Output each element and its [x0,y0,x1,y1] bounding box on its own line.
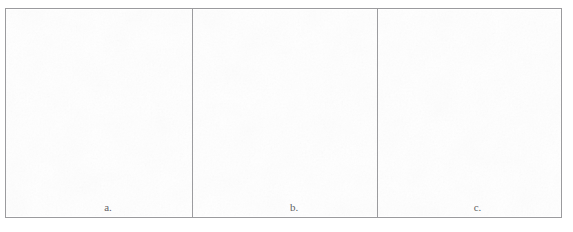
panel-a-label: a. [15,201,201,213]
figure-caption-strip: — ——— ————— [4,0,304,5]
panel-a-content-area [6,9,192,191]
figure-caption-text: — ——— ————— [4,0,304,5]
figure-frame: a. b. c. [5,8,562,218]
panel-b-content-area [193,9,377,191]
panel-b-label: b. [202,201,386,213]
figure-panel-c[interactable]: c. [377,9,561,217]
panel-c-label: c. [386,201,569,213]
page-canvas: — ——— ————— a. b. c. [0,0,573,232]
figure-panel-b[interactable]: b. [192,9,377,217]
panel-c-content-area [378,9,561,191]
figure-panel-a[interactable]: a. [6,9,192,217]
